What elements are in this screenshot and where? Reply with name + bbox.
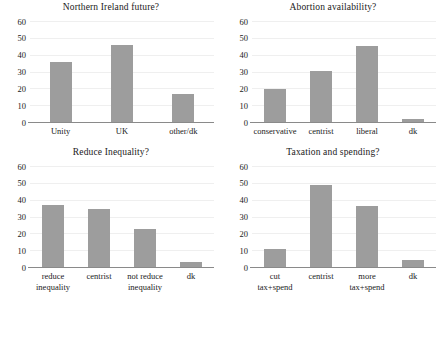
y-axis-tick-label: 10 [18,247,27,256]
bar-slot [390,22,436,123]
y-axis-tick-label: 0 [244,119,248,128]
x-axis-tick-labels: reduceinequalitycentristnot reduceinequa… [30,271,214,293]
x-axis-tick-label: more tax+spend [344,271,390,293]
bar [356,206,378,268]
bar [111,45,133,123]
y-axis-tick-label: 60 [18,18,27,27]
x-axis-tick-label: conservative [252,126,298,137]
x-axis-line [250,122,436,123]
y-axis-tick-label: 20 [18,85,27,94]
bar [50,62,72,123]
y-axis-tick-label: 50 [240,35,249,44]
bar-slot [91,22,152,123]
x-axis-tick-label: not reduceinequality [122,271,168,293]
y-axis-tick-label: 20 [240,85,249,94]
plot-area: 0102030405060 [252,167,436,268]
x-axis-tick-label: liberal [344,126,390,137]
x-axis-tick-labels: cut tax+spendcentristmore tax+spenddk [252,271,436,293]
bar [42,205,64,268]
x-axis-line [28,267,214,268]
bar-slot [344,167,390,268]
y-axis-tick-label: 20 [18,230,27,239]
y-axis-tick-label: 10 [240,102,249,111]
chart-title: Northern Ireland future? [0,2,222,12]
x-axis-tick-label: dk [390,271,436,293]
y-axis-tick-label: 30 [18,213,27,222]
x-axis-tick-label: UK [91,126,152,137]
chart-title: Taxation and spending? [222,147,444,157]
bar-slot [122,167,168,268]
chart-panel-northern-ireland-future: Northern Ireland future? 0102030405060 U… [0,0,222,145]
y-axis-tick-label: 40 [18,51,27,60]
bar-slot [344,22,390,123]
x-axis-tick-label: Unity [30,126,91,137]
x-axis-tick-label: reduceinequality [30,271,76,293]
x-axis-tick-labels: UnityUKother/dk [30,126,214,137]
chart-panel-abortion-availability: Abortion availability? 0102030405060 con… [222,0,444,145]
y-axis-tick-label: 30 [18,68,27,77]
bar [356,46,378,123]
bar-slot [168,167,214,268]
y-axis-tick-label: 50 [240,180,249,189]
bar [264,249,286,268]
y-axis-tick-label: 60 [18,163,27,172]
x-axis-tick-label: dk [390,126,436,137]
chart-panel-reduce-inequality: Reduce Inequality? 0102030405060 reducei… [0,145,222,345]
bar-series [30,167,214,268]
y-axis-tick-label: 60 [240,163,249,172]
x-axis-tick-label: centrist [298,126,344,137]
y-axis-tick-label: 30 [240,68,249,77]
bar-series [252,22,436,123]
x-axis-tick-label: dk [168,271,214,293]
chart-panel-taxation-and-spending: Taxation and spending? 0102030405060 cut… [222,145,444,345]
bar-slot [153,22,214,123]
bar [264,89,286,124]
bar [88,209,110,268]
x-axis-line [250,267,436,268]
bar-slot [252,22,298,123]
y-axis-tick-label: 40 [240,196,249,205]
bar-slot [252,167,298,268]
y-axis-tick-label: 50 [18,35,27,44]
bar [134,229,156,268]
x-axis-tick-labels: conservativecentristliberaldk [252,126,436,137]
y-axis-tick-label: 60 [240,18,249,27]
y-axis-tick-label: 40 [240,51,249,60]
bar-slot [30,22,91,123]
bar-slot [298,167,344,268]
bar [172,94,194,123]
chart-title: Abortion availability? [222,2,444,12]
x-axis-tick-label: centrist [76,271,122,293]
y-axis-tick-label: 40 [18,196,27,205]
bar-series [30,22,214,123]
x-axis-tick-label: other/dk [153,126,214,137]
y-axis-tick-label: 50 [18,180,27,189]
y-axis-tick-label: 0 [244,264,248,273]
four-panel-bar-chart-figure: Northern Ireland future? 0102030405060 U… [0,0,444,345]
y-axis-tick-label: 30 [240,213,249,222]
y-axis-tick-label: 10 [240,247,249,256]
y-axis-tick-label: 0 [22,119,26,128]
bar-slot [76,167,122,268]
bar-slot [298,22,344,123]
x-axis-tick-label: cut tax+spend [252,271,298,293]
plot-area: 0102030405060 [252,22,436,123]
plot-area: 0102030405060 [30,167,214,268]
x-axis-tick-label: centrist [298,271,344,293]
bar-slot [390,167,436,268]
y-axis-tick-label: 20 [240,230,249,239]
y-axis-tick-label: 10 [18,102,27,111]
bar-slot [30,167,76,268]
chart-title: Reduce Inequality? [0,147,222,157]
y-axis-tick-label: 0 [22,264,26,273]
bar [310,71,332,123]
x-axis-line [28,122,214,123]
plot-area: 0102030405060 [30,22,214,123]
bar [310,185,332,268]
bar-series [252,167,436,268]
